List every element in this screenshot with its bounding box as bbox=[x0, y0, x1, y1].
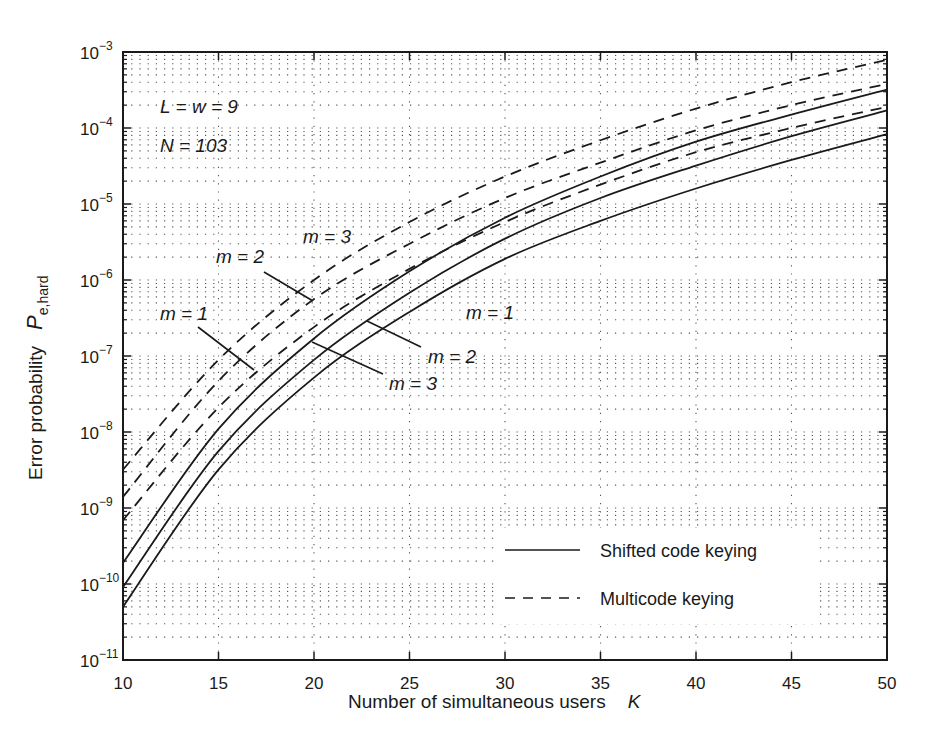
annotation-leader-line bbox=[312, 342, 383, 374]
error-probability-chart: L = w = 9N = 103m = 3m = 2m = 1m = 1m = … bbox=[0, 0, 934, 742]
chart-canvas: L = w = 9N = 103m = 3m = 2m = 1m = 1m = … bbox=[0, 0, 934, 742]
y-tick-label: 10−3 bbox=[80, 39, 113, 63]
series-line-shifted-2 bbox=[123, 90, 887, 563]
y-tick-label: 10−10 bbox=[80, 571, 120, 595]
x-tick-label: 10 bbox=[114, 674, 133, 693]
annotation-label: m = 1 bbox=[160, 303, 208, 324]
y-tick-label: 10−4 bbox=[80, 115, 113, 139]
x-tick-label: 15 bbox=[209, 674, 228, 693]
legend: Shifted code keying Multicode keying bbox=[495, 528, 815, 624]
y-tick-label: 10−6 bbox=[80, 267, 113, 291]
x-tick-label: 20 bbox=[305, 674, 324, 693]
annotations: L = w = 9N = 103m = 3m = 2m = 1m = 1m = … bbox=[160, 96, 514, 394]
annotation-label: m = 3 bbox=[303, 226, 351, 247]
annotation-label: L = w = 9 bbox=[160, 96, 238, 117]
x-axis-title: Number of simultaneous usersK bbox=[348, 691, 642, 712]
y-tick-label: 10−9 bbox=[80, 495, 113, 519]
data-series bbox=[123, 60, 887, 607]
y-tick-label: 10−5 bbox=[80, 191, 113, 215]
annotation-leader-line bbox=[198, 327, 254, 370]
y-tick-label: 10−7 bbox=[80, 343, 113, 367]
legend-label-shifted: Shifted code keying bbox=[600, 541, 757, 561]
legend-label-multicode: Multicode keying bbox=[600, 589, 734, 609]
y-tick-label: 10−11 bbox=[80, 647, 119, 671]
annotation-label: m = 2 bbox=[216, 246, 264, 267]
y-axis-title: Error probabilityPe,hard bbox=[22, 276, 51, 481]
x-tick-label: 50 bbox=[878, 674, 897, 693]
annotation-label: m = 3 bbox=[389, 373, 437, 394]
y-tick-label: 10−8 bbox=[80, 419, 113, 443]
x-tick-label: 40 bbox=[687, 674, 706, 693]
annotation-label: N = 103 bbox=[160, 135, 228, 156]
annotation-label: m = 2 bbox=[428, 346, 476, 367]
x-tick-label: 45 bbox=[782, 674, 801, 693]
series-line-shifted-1 bbox=[123, 110, 887, 587]
annotation-label: m = 1 bbox=[466, 302, 514, 323]
